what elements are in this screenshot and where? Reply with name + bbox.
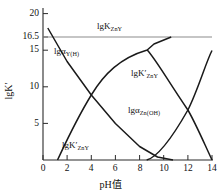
y-tick-label-10: 10 bbox=[14, 82, 39, 92]
x-axis-ticks bbox=[43, 155, 212, 160]
annotation-lg-alpha-Y-H-sub: Y(H) bbox=[66, 50, 79, 57]
y-tick-label-20: 20 bbox=[14, 9, 39, 19]
x-tick-label-14: 14 bbox=[202, 164, 221, 174]
y-tick-label-16-5: 16.5 bbox=[6, 32, 39, 42]
annotation-lgK-prime-ZnY-upper-sub: ZnY bbox=[146, 72, 158, 79]
x-tick-label-4: 4 bbox=[81, 164, 101, 174]
y-axis-ticks bbox=[43, 14, 48, 124]
chart-figure: 20 16.5 15 10 5 0 2 4 6 8 10 12 14 pH值 l… bbox=[0, 0, 221, 192]
x-tick-label-0: 0 bbox=[33, 164, 53, 174]
x-tick-label-6: 6 bbox=[105, 164, 125, 174]
annotation-lgK-prime-ZnY-upper-main: lgK′ bbox=[131, 68, 146, 78]
annotation-lg-alpha-Zn-OH-sub: Zn(OH) bbox=[140, 109, 161, 116]
x-tick-label-8: 8 bbox=[130, 164, 150, 174]
annotation-lg-alpha-Y-H: lgαY(H) bbox=[54, 47, 79, 56]
curve-lgK-prime-ZnY-falling bbox=[147, 50, 212, 160]
annotation-lgK-prime-ZnY-lower: lgK′ZnY bbox=[62, 141, 89, 150]
y-tick-label-15: 15 bbox=[14, 45, 39, 55]
annotation-lgK-prime-ZnY-upper: lgK′ZnY bbox=[131, 69, 158, 78]
x-tick-label-10: 10 bbox=[154, 164, 174, 174]
y-tick-label-5: 5 bbox=[14, 119, 39, 129]
x-axis-title: pH值 bbox=[0, 180, 221, 190]
annotation-lgK-prime-ZnY-lower-main: lgK′ bbox=[62, 140, 77, 150]
annotation-lg-alpha-Zn-OH-main: lgα bbox=[128, 105, 140, 115]
x-tick-label-2: 2 bbox=[57, 164, 77, 174]
annotation-lg-alpha-Zn-OH: lgαZn(OH) bbox=[128, 106, 160, 115]
y-axis-title: lgK′ bbox=[4, 71, 14, 111]
annotation-lgK-prime-ZnY-lower-sub: ZnY bbox=[77, 144, 89, 151]
annotation-lg-alpha-Y-H-main: lgα bbox=[54, 46, 66, 56]
annotation-lgK-ZnY-sub: ZnY bbox=[111, 25, 123, 32]
x-tick-label-12: 12 bbox=[178, 164, 198, 174]
annotation-lgK-ZnY: lgKZnY bbox=[97, 22, 122, 31]
annotation-lgK-ZnY-main: lgK bbox=[97, 21, 111, 31]
